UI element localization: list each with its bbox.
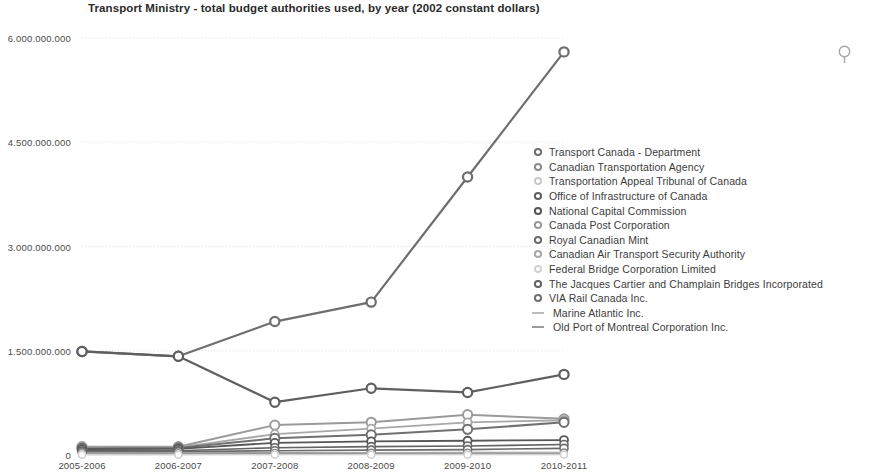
legend-item[interactable]: Marine Atlantic Inc. bbox=[527, 306, 872, 321]
legend-circle-icon bbox=[527, 292, 549, 304]
legend-item-label: Canadian Air Transport Security Authorit… bbox=[549, 248, 745, 260]
x-tick-label: 2006-2007 bbox=[155, 460, 202, 471]
legend-circle-icon bbox=[527, 278, 549, 290]
legend-item-label: National Capital Commission bbox=[549, 205, 687, 217]
legend-circle-icon bbox=[527, 248, 549, 260]
chart-legend: Transport Canada - DepartmentCanadian Tr… bbox=[527, 145, 872, 335]
y-tick-label: 4.500.000.000 bbox=[8, 137, 71, 148]
data-point[interactable] bbox=[174, 352, 183, 361]
plot-series-layer bbox=[82, 38, 565, 455]
legend-circle-icon bbox=[527, 234, 549, 246]
series-line bbox=[82, 422, 564, 448]
legend-item[interactable]: The Jacques Cartier and Champlain Bridge… bbox=[527, 276, 872, 291]
x-tick-label: 2009-2010 bbox=[444, 460, 491, 471]
legend-item[interactable]: Canadian Transportation Agency bbox=[527, 160, 872, 175]
legend-item-label: VIA Rail Canada Inc. bbox=[549, 292, 648, 304]
legend-circle-icon bbox=[527, 146, 549, 158]
legend-item-label: Office of Infrastructure of Canada bbox=[549, 190, 707, 202]
chart-title: Transport Ministry - total budget author… bbox=[88, 2, 540, 14]
data-point[interactable] bbox=[559, 47, 568, 56]
x-tick-label: 2005-2006 bbox=[58, 460, 105, 471]
data-point[interactable] bbox=[559, 370, 568, 379]
data-point[interactable] bbox=[270, 421, 279, 430]
y-tick-label: 6.000.000.000 bbox=[8, 33, 71, 44]
data-point[interactable] bbox=[77, 347, 86, 356]
legend-dash-icon bbox=[527, 307, 549, 319]
data-point[interactable] bbox=[367, 384, 376, 393]
legend-item-label: Transport Canada - Department bbox=[549, 146, 700, 158]
x-tick-label: 2008-2009 bbox=[348, 460, 395, 471]
legend-item-label: Canada Post Corporation bbox=[549, 219, 670, 231]
legend-dash-icon bbox=[527, 321, 549, 333]
y-tick-label: 3.000.000.000 bbox=[8, 241, 71, 252]
legend-item[interactable]: Canada Post Corporation bbox=[527, 218, 872, 233]
data-point[interactable] bbox=[463, 388, 472, 397]
legend-circle-icon bbox=[527, 219, 549, 231]
legend-item[interactable]: Transport Canada - Department bbox=[527, 145, 872, 160]
legend-item-label: The Jacques Cartier and Champlain Bridge… bbox=[549, 278, 823, 290]
legend-item-label: Canadian Transportation Agency bbox=[549, 161, 704, 173]
legend-item-label: Royal Canadian Mint bbox=[549, 234, 648, 246]
plot-area bbox=[82, 38, 565, 455]
legend-circle-icon bbox=[527, 205, 549, 217]
legend-item[interactable]: Royal Canadian Mint bbox=[527, 233, 872, 248]
search-icon[interactable] bbox=[836, 44, 854, 64]
series-line bbox=[82, 351, 564, 402]
data-point[interactable] bbox=[463, 425, 472, 434]
data-point[interactable] bbox=[463, 172, 472, 181]
legend-item-label: Transportation Appeal Tribunal of Canada bbox=[549, 175, 747, 187]
legend-item[interactable]: Federal Bridge Corporation Limited bbox=[527, 262, 872, 277]
legend-circle-icon bbox=[527, 263, 549, 275]
y-axis: 6.000.000.0004.500.000.0003.000.000.0001… bbox=[0, 0, 82, 476]
data-point[interactable] bbox=[270, 398, 279, 407]
legend-item[interactable]: Old Port of Montreal Corporation Inc. bbox=[527, 320, 872, 335]
legend-item-label: Federal Bridge Corporation Limited bbox=[549, 263, 716, 275]
data-point[interactable] bbox=[561, 451, 568, 458]
legend-circle-icon bbox=[527, 161, 549, 173]
legend-item[interactable]: National Capital Commission bbox=[527, 203, 872, 218]
legend-item-label: Old Port of Montreal Corporation Inc. bbox=[549, 321, 728, 333]
legend-circle-icon bbox=[527, 175, 549, 187]
legend-item[interactable]: Office of Infrastructure of Canada bbox=[527, 189, 872, 204]
y-tick-label: 1.500.000.000 bbox=[8, 345, 71, 356]
data-point[interactable] bbox=[367, 298, 376, 307]
x-tick-label: 2010-2011 bbox=[541, 460, 588, 471]
legend-item[interactable]: VIA Rail Canada Inc. bbox=[527, 291, 872, 306]
legend-item[interactable]: Transportation Appeal Tribunal of Canada bbox=[527, 174, 872, 189]
x-tick-label: 2007-2008 bbox=[251, 460, 298, 471]
legend-item-label: Marine Atlantic Inc. bbox=[549, 307, 644, 319]
chart-container: Transport Ministry - total budget author… bbox=[0, 0, 872, 476]
data-point[interactable] bbox=[270, 317, 279, 326]
data-point[interactable] bbox=[464, 451, 471, 458]
x-axis: 2005-20062006-20072007-20082008-20092009… bbox=[0, 458, 872, 476]
series-line bbox=[82, 52, 564, 356]
data-point[interactable] bbox=[559, 418, 568, 427]
legend-circle-icon bbox=[527, 190, 549, 202]
legend-item[interactable]: Canadian Air Transport Security Authorit… bbox=[527, 247, 872, 262]
